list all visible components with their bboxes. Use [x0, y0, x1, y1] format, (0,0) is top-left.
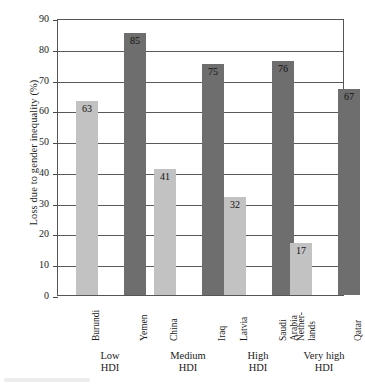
bar[interactable]: 63: [76, 101, 98, 295]
y-axis-title: Loss due to gender inequality (%): [28, 28, 39, 278]
y-tick-mark: [53, 143, 58, 144]
y-tick-mark: [53, 297, 58, 298]
group-label: Medium HDI: [148, 350, 228, 374]
gridline: [58, 112, 343, 113]
scan-artifact: [4, 378, 90, 382]
y-tick-mark: [53, 235, 58, 236]
y-tick-mark: [53, 20, 58, 21]
plot-area: 6385417532761767: [57, 19, 344, 296]
y-tick-label: 90: [21, 14, 49, 24]
category-label: Yemen: [139, 315, 150, 341]
bar[interactable]: 17: [290, 243, 312, 295]
group-label: Low HDI: [70, 350, 150, 374]
gridline: [58, 174, 343, 175]
y-tick-label: 70: [21, 76, 49, 86]
category-label: China: [169, 318, 180, 341]
y-tick-label: 0: [21, 291, 49, 301]
y-tick-label: 50: [21, 137, 49, 147]
bar-value-label: 67: [338, 92, 360, 102]
category-label: Qatar: [353, 320, 364, 341]
y-tick-label: 20: [21, 229, 49, 239]
y-tick-label: 30: [21, 199, 49, 209]
y-tick-mark: [53, 51, 58, 52]
category-label: Latvia: [239, 317, 250, 341]
y-tick-mark: [53, 112, 58, 113]
bar-chart-figure: Loss due to gender inequality (%) 908070…: [0, 0, 365, 387]
y-tick-mark: [53, 266, 58, 267]
category-label: Nether- lands: [296, 312, 317, 341]
y-tick-label: 80: [21, 45, 49, 55]
group-label: Very high HDI: [284, 350, 364, 374]
category-label: Burundi: [91, 310, 102, 341]
bar[interactable]: 67: [338, 89, 360, 295]
gridline: [58, 235, 343, 236]
gridline: [58, 143, 343, 144]
bar-value-label: 76: [272, 64, 294, 74]
y-tick-mark: [53, 174, 58, 175]
bar[interactable]: 85: [124, 33, 146, 295]
bar[interactable]: 41: [154, 169, 176, 295]
bar-value-label: 41: [154, 172, 176, 182]
bar-value-label: 63: [76, 104, 98, 114]
y-tick-label: 60: [21, 106, 49, 116]
bar-value-label: 75: [202, 67, 224, 77]
y-tick-mark: [53, 82, 58, 83]
category-label: Iraq: [217, 326, 228, 341]
y-tick-mark: [53, 205, 58, 206]
gridline: [58, 51, 343, 52]
gridline: [58, 82, 343, 83]
y-tick-label: 40: [21, 168, 49, 178]
bar[interactable]: 75: [202, 64, 224, 295]
bar-value-label: 17: [290, 246, 312, 256]
bar[interactable]: 32: [224, 197, 246, 295]
gridline: [58, 205, 343, 206]
y-tick-label: 10: [21, 260, 49, 270]
bar-value-label: 85: [124, 36, 146, 46]
bar-value-label: 32: [224, 200, 246, 210]
